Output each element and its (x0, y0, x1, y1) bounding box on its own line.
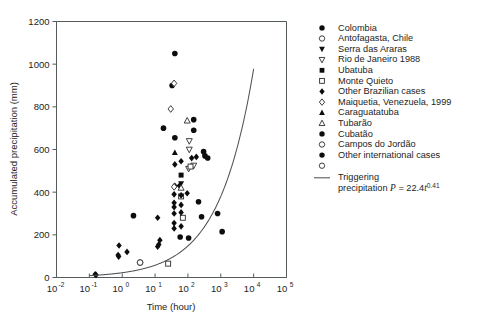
legend-item-label: Colombia (338, 23, 378, 33)
legend-item-label: Serra das Araras (338, 44, 407, 54)
y-tick-label: 400 (34, 187, 50, 198)
data-point-marker (186, 235, 192, 241)
legend-curve-equation: precipitation P = 22.4t0.41 (338, 182, 440, 193)
legend-item-label: Tubarão (338, 118, 372, 128)
data-point-marker (215, 211, 221, 217)
y-tick-label: 800 (34, 101, 50, 112)
legend-item-label: Antofagasta, Chile (338, 33, 413, 43)
y-axis-title: Accumulated precipitation (mm) (8, 82, 19, 216)
x-tick-label: 10 (47, 283, 58, 294)
legend-marker (320, 68, 325, 73)
x-tick-label: 10 (145, 283, 156, 294)
x-tick-exponent: 0 (125, 281, 129, 288)
legend-marker (319, 25, 324, 30)
data-point-marker (161, 125, 167, 131)
series-group (137, 260, 143, 266)
eq-prefix: precipitation (338, 183, 390, 193)
data-point-marker (166, 261, 171, 266)
legend-marker (319, 36, 324, 41)
data-point-marker (177, 234, 183, 240)
data-point-marker (199, 214, 205, 220)
x-tick-exponent: -2 (59, 281, 65, 288)
y-tick-label: 600 (34, 144, 50, 155)
legend-item-label: Monte Quieto (338, 76, 393, 86)
chart-canvas: 020040060080010001200 10-210-11001011021… (0, 0, 489, 328)
x-tick-exponent: 4 (257, 281, 261, 288)
precipitation-scatter-figure: 020040060080010001200 10-210-11001011021… (0, 0, 489, 328)
x-tick-label: 10 (244, 283, 255, 294)
legend-item-label: Other Brazilian cases (338, 86, 426, 96)
legend-item-label: Other international cases (338, 150, 441, 160)
legend-item-label: Campos do Jordão (338, 139, 416, 149)
legend-item-label: Maiquetia, Venezuela, 1999 (338, 97, 451, 107)
x-tick-label: 10 (277, 283, 288, 294)
x-tick-exponent: 2 (191, 281, 195, 288)
data-point-marker (205, 155, 211, 161)
x-tick-exponent: 5 (290, 281, 294, 288)
x-tick-label: 10 (80, 283, 91, 294)
x-tick-exponent: 3 (224, 281, 228, 288)
data-point-marker (131, 213, 137, 219)
data-point-marker (180, 215, 185, 220)
data-point-marker (188, 164, 193, 169)
series-group (131, 213, 137, 219)
x-tick-label: 10 (112, 283, 123, 294)
legend-item-label: Rio de Janeiro 1988 (338, 54, 420, 64)
y-tick-label: 0 (44, 272, 49, 283)
legend-item-label: Cubatão (338, 129, 373, 139)
eq-equals-coeff: = 22.4 (396, 183, 424, 193)
data-point-marker (172, 51, 178, 57)
data-point-marker (172, 135, 178, 141)
x-tick-exponent: 1 (158, 281, 162, 288)
x-tick-exponent: -1 (91, 281, 97, 288)
legend-marker (319, 152, 324, 157)
eq-exponent: 0.41 (427, 182, 440, 189)
data-point-marker (219, 229, 225, 235)
series-group (179, 173, 184, 178)
legend-curve-label-line1: Triggering (338, 172, 379, 182)
data-point-marker (137, 260, 143, 266)
legend-marker (319, 163, 324, 168)
data-point-marker (191, 117, 197, 123)
legend-item-label: Caraguatatuba (338, 107, 400, 117)
y-tick-label: 1200 (28, 16, 49, 27)
data-point-marker (191, 127, 197, 133)
x-axis-title: Time (hour) (147, 301, 196, 312)
figure-background (0, 0, 489, 328)
y-tick-label: 1000 (28, 59, 49, 70)
legend-marker (319, 131, 324, 136)
data-point-marker (179, 173, 184, 178)
x-tick-label: 10 (211, 283, 222, 294)
x-tick-label: 10 (178, 283, 189, 294)
legend-marker (319, 142, 324, 147)
data-point-marker (196, 199, 202, 205)
legend-marker (320, 79, 325, 84)
legend-item-label: Ubatuba (338, 65, 374, 75)
y-tick-label: 200 (34, 229, 50, 240)
